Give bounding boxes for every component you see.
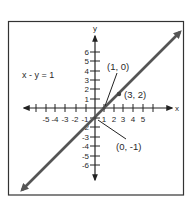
point-3-2 [117,92,121,96]
point-label-1-0: (1, 0) [107,61,129,72]
svg-text:-4: -4 [82,142,90,151]
x-axis-label: x [175,104,179,113]
equation-label: x - y = 1 [22,70,54,80]
graph-figure: x y -5 -4 -3 -2 -1 1 2 3 4 5 [0,0,196,205]
point-label-0-neg1: (0, -1) [116,141,141,152]
svg-text:6: 6 [85,48,90,57]
svg-text:5: 5 [141,115,146,124]
svg-text:-4: -4 [51,115,59,124]
point-1-0 [102,106,105,109]
svg-text:4: 4 [131,115,136,124]
y-axis-label: y [93,24,97,33]
svg-text:-2: -2 [71,115,79,124]
svg-text:3: 3 [85,76,90,85]
point-0-neg1 [93,116,96,119]
svg-text:4: 4 [85,67,90,76]
svg-text:-6: -6 [82,161,90,170]
svg-text:5: 5 [85,57,90,66]
svg-text:-5: -5 [42,115,50,124]
svg-text:-3: -3 [61,115,69,124]
svg-text:2: 2 [112,115,117,124]
svg-text:2: 2 [85,85,90,94]
svg-text:3: 3 [121,115,126,124]
svg-text:-3: -3 [82,133,90,142]
svg-text:1: 1 [85,95,90,104]
point-label-3-2: (3, 2) [124,89,146,100]
svg-text:-5: -5 [82,152,90,161]
